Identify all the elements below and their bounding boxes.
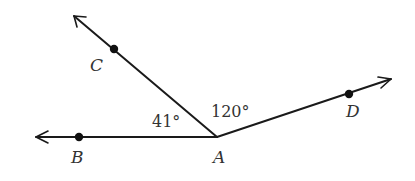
label-d: D bbox=[345, 101, 360, 121]
angle-diagram: C B A D 41° 120° bbox=[0, 0, 415, 181]
label-a: A bbox=[211, 147, 225, 167]
ray-ac bbox=[74, 16, 217, 137]
angle-bac-measure: 41° bbox=[152, 112, 180, 131]
label-b: B bbox=[70, 147, 84, 167]
ray-ab bbox=[36, 131, 217, 143]
point-b bbox=[75, 133, 83, 141]
angle-cad-measure: 120° bbox=[211, 102, 250, 121]
point-d bbox=[345, 90, 353, 98]
point-c bbox=[110, 45, 118, 53]
label-c: C bbox=[90, 55, 103, 75]
